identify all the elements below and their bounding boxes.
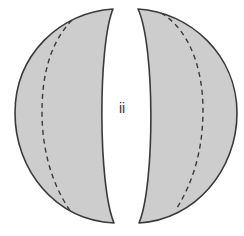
left-lobe: [15, 9, 114, 223]
diagram-canvas: ii: [0, 0, 244, 236]
center-label: ii: [119, 100, 125, 116]
